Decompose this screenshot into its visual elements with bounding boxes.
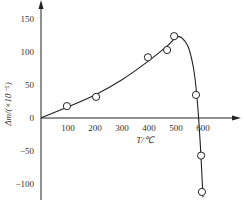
axes bbox=[39, 0, 242, 200]
x-tick-label: 500 bbox=[169, 123, 183, 133]
y-tick-labels: 150100500−50−100 bbox=[15, 14, 34, 189]
x-axis-arrow bbox=[232, 116, 241, 121]
data-point bbox=[198, 188, 205, 195]
x-tick-label: 400 bbox=[142, 123, 156, 133]
x-axis-label: T/℃ bbox=[136, 135, 155, 145]
y-tick-label: 0 bbox=[30, 113, 35, 123]
data-point bbox=[171, 33, 178, 40]
data-point bbox=[163, 46, 170, 53]
x-tick-label: 100 bbox=[61, 123, 75, 133]
y-tick-label: 150 bbox=[21, 14, 35, 24]
x-tick-label: 300 bbox=[115, 123, 129, 133]
y-tick-label: 50 bbox=[25, 80, 35, 90]
data-point bbox=[144, 54, 151, 61]
data-point bbox=[198, 152, 205, 159]
y-tick-label: −100 bbox=[15, 179, 34, 189]
fitted-curve-layer bbox=[41, 36, 203, 197]
y-tick-label: −50 bbox=[20, 146, 35, 156]
fitted-curve bbox=[41, 36, 203, 197]
x-tick-labels: 100200300400500600 bbox=[61, 123, 210, 133]
x-tick-label: 200 bbox=[88, 123, 102, 133]
data-point bbox=[63, 103, 70, 110]
x-tick-label: 600 bbox=[196, 123, 210, 133]
data-points-layer bbox=[63, 33, 205, 196]
y-tick-label: 100 bbox=[21, 47, 35, 57]
data-point bbox=[92, 93, 99, 100]
data-point bbox=[192, 91, 199, 98]
y-axis-arrow bbox=[39, 0, 44, 9]
chart: 100200300400500600 150100500−50−100 T/℃ … bbox=[0, 0, 244, 208]
y-axis-label: Δm/(×10⁻⁵) bbox=[3, 82, 13, 126]
